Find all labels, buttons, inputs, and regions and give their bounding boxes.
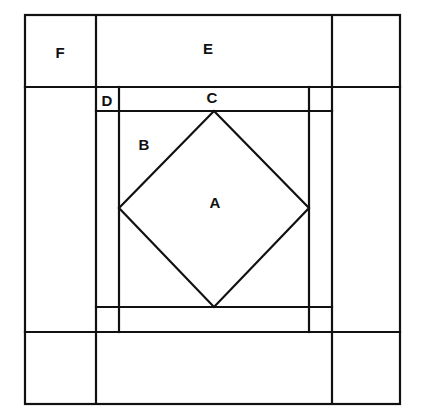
label-c: C: [207, 89, 218, 106]
label-e: E: [203, 40, 213, 57]
label-d: D: [102, 92, 113, 109]
label-b: B: [139, 136, 150, 153]
label-f: F: [55, 44, 64, 61]
label-a: A: [210, 194, 221, 211]
quilt-block-diagram: F E D C B A: [0, 0, 421, 420]
